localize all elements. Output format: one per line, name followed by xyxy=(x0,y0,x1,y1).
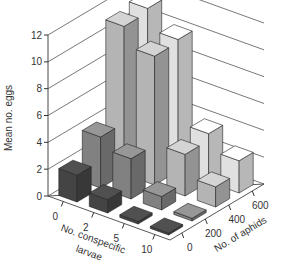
y-tick-label: 2 xyxy=(36,164,42,175)
z-tick xyxy=(229,205,231,210)
y-tick-label: 6 xyxy=(36,110,42,121)
y-tick-label: 8 xyxy=(36,83,42,94)
z-tick-label: 600 xyxy=(252,200,269,211)
x-tick xyxy=(122,224,124,229)
bar xyxy=(150,218,182,235)
bar xyxy=(120,206,152,224)
bar-face-top xyxy=(150,218,182,233)
x-tick-label: 10 xyxy=(141,244,153,255)
y-tick-label: 10 xyxy=(31,56,43,67)
z-tick-label: 0 xyxy=(187,242,193,253)
z-tick xyxy=(252,191,254,196)
y-tick-label: 12 xyxy=(31,30,43,41)
y-tick-label: 0 xyxy=(36,191,42,202)
z-tick xyxy=(205,219,207,224)
z-tick-label: 200 xyxy=(205,228,222,239)
y-axis: 024681012 xyxy=(31,30,48,202)
bar xyxy=(174,203,206,221)
x-tick xyxy=(92,213,94,218)
x-tick-label: 0 xyxy=(52,211,58,222)
chart-3d-bar: 024681012 02510 0200400600 Mean no. eggs… xyxy=(0,0,284,274)
bar xyxy=(59,160,91,202)
y-axis-label: Mean no. eggs xyxy=(3,85,14,151)
z-tick xyxy=(182,233,184,238)
x-tick xyxy=(61,202,63,207)
x-tick xyxy=(153,235,155,240)
z-tick-label: 400 xyxy=(228,214,245,225)
y-tick-label: 4 xyxy=(36,137,42,148)
bar xyxy=(197,172,229,207)
